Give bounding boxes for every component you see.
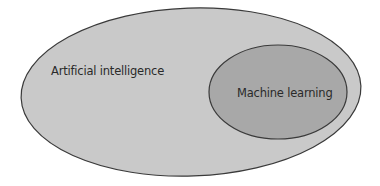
machine-learning-label: Machine learning: [237, 86, 333, 100]
ai-ml-diagram: Artificial intelligence Machine learning: [0, 0, 380, 186]
artificial-intelligence-label: Artificial intelligence: [51, 64, 164, 78]
